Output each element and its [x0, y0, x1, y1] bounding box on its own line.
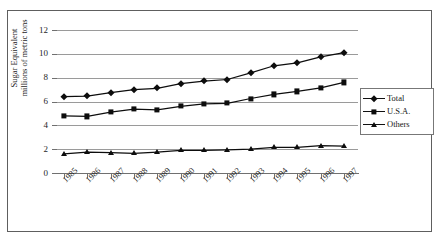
chart-figure: 024681012 Sugar Equivalent millions of m…: [0, 0, 443, 244]
legend-item-u-s-a[interactable]: U.S.A.: [363, 105, 430, 118]
square-marker-icon: [61, 113, 66, 118]
chart-legend: TotalU.S.A.Others: [360, 88, 434, 135]
y-tick-mark: [52, 78, 57, 79]
legend-label: U.S.A.: [385, 107, 410, 116]
legend-item-total[interactable]: Total: [363, 92, 430, 105]
square-marker-icon: [341, 80, 346, 85]
triangle-marker-icon: [84, 149, 90, 154]
triangle-marker-icon: [224, 147, 230, 152]
y-tick-label: 2: [30, 145, 48, 154]
legend-sample: [363, 119, 385, 130]
triangle-marker-icon: [271, 144, 277, 149]
y-tick-mark: [52, 125, 57, 126]
triangle-marker-icon: [341, 143, 347, 148]
square-marker-icon: [201, 101, 206, 106]
square-marker-icon: [178, 104, 183, 109]
y-axis-title-line-1: Sugar Equivalent: [9, 0, 19, 123]
triangle-marker-icon: [131, 150, 137, 155]
triangle-marker-icon: [248, 146, 254, 151]
legend-item-others[interactable]: Others: [363, 118, 430, 131]
triangle-marker-icon: [61, 151, 67, 156]
triangle-marker-icon: [294, 144, 300, 149]
legend-sample: [363, 93, 385, 104]
y-tick-mark: [52, 102, 57, 103]
triangle-marker-icon: [178, 147, 184, 152]
square-marker-icon: [155, 107, 160, 112]
square-marker-icon: [318, 85, 323, 90]
legend-label: Others: [385, 120, 410, 129]
triangle-marker-icon: [154, 149, 160, 154]
square-marker-icon: [271, 92, 276, 97]
legend-label: Total: [385, 94, 404, 103]
chart-title-remnant: [150, 0, 210, 5]
triangle-marker-icon: [371, 122, 377, 127]
legend-sample: [363, 106, 385, 117]
series-lines: [56, 30, 358, 173]
y-axis-title: Sugar Equivalent millions of metric tons: [9, 0, 33, 123]
square-marker-icon: [225, 101, 230, 106]
triangle-marker-icon: [108, 150, 114, 155]
triangle-marker-icon: [201, 147, 207, 152]
y-tick-mark: [52, 173, 57, 174]
square-marker-icon: [295, 89, 300, 94]
y-tick-mark: [52, 54, 57, 55]
triangle-marker-icon: [318, 143, 324, 148]
square-marker-icon: [248, 96, 253, 101]
series-line-u-s-a: [64, 82, 344, 116]
square-marker-icon: [371, 109, 376, 114]
y-axis-title-line-2: millions of metric tons: [19, 0, 29, 123]
square-marker-icon: [85, 114, 90, 119]
square-marker-icon: [108, 110, 113, 115]
plot-area: [56, 30, 358, 173]
diamond-marker-icon: [370, 95, 378, 103]
square-marker-icon: [131, 107, 136, 112]
y-tick-mark: [52, 30, 57, 31]
y-tick-label: 0: [30, 169, 48, 178]
y-tick-mark: [52, 149, 57, 150]
